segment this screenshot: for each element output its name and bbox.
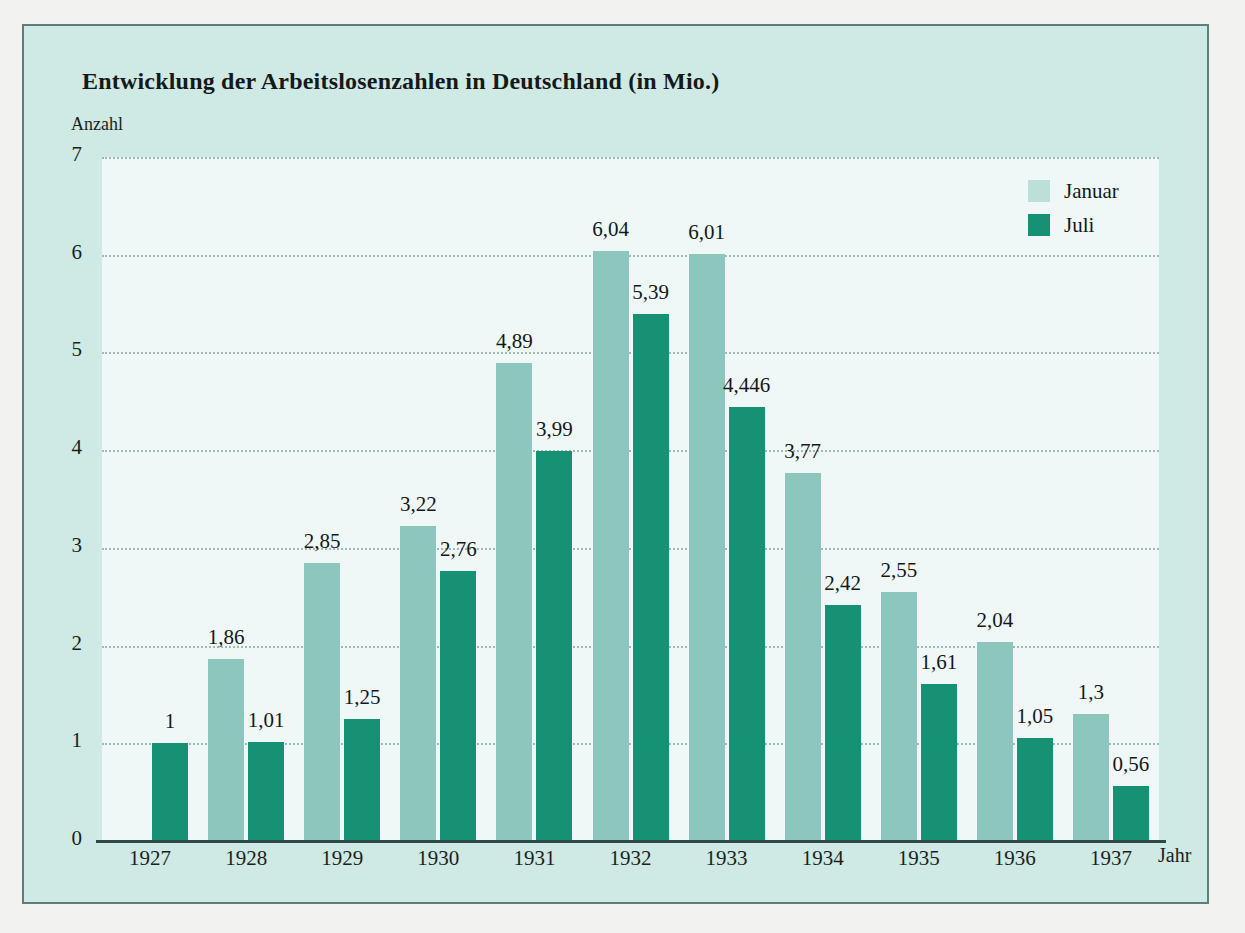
bar-juli-1927 bbox=[152, 743, 188, 841]
bar-value-label: 6,01 bbox=[688, 220, 725, 245]
legend-label-januar: Januar bbox=[1064, 179, 1119, 204]
bar-juli-1935 bbox=[921, 684, 957, 841]
bar-januar-1932 bbox=[593, 251, 629, 841]
bar-value-label: 2,76 bbox=[440, 537, 477, 562]
y-axis-tick-label: 3 bbox=[42, 533, 82, 558]
legend-swatch-dark-icon bbox=[1028, 214, 1050, 236]
bar-januar-1936 bbox=[977, 642, 1013, 841]
bar-juli-1928 bbox=[248, 742, 284, 841]
legend-label-juli: Juli bbox=[1064, 213, 1094, 238]
y-axis-tick-label: 0 bbox=[42, 826, 82, 851]
bar-value-label: 2,55 bbox=[880, 558, 917, 583]
chart-legend: Januar Juli bbox=[1028, 174, 1119, 242]
bar-januar-1935 bbox=[881, 592, 917, 841]
x-axis-tick-label-1937: 1937 bbox=[1051, 846, 1171, 871]
bar-value-label: 4,446 bbox=[723, 373, 770, 398]
screenshot-root: Entwicklung der Arbeitslosenzahlen in De… bbox=[0, 0, 1245, 933]
chart-title: Entwicklung der Arbeitslosenzahlen in De… bbox=[82, 68, 719, 95]
bar-juli-1930 bbox=[440, 571, 476, 841]
legend-item-juli: Juli bbox=[1028, 208, 1119, 242]
plot-area: 11,861,012,851,253,222,764,893,996,045,3… bbox=[102, 157, 1159, 841]
y-axis-tick-label: 2 bbox=[42, 631, 82, 656]
bar-januar-1934 bbox=[785, 473, 821, 841]
x-axis-line bbox=[96, 840, 1166, 843]
bar-juli-1934 bbox=[825, 605, 861, 841]
bar-value-label: 3,22 bbox=[400, 492, 437, 517]
bar-juli-1937 bbox=[1113, 786, 1149, 841]
bar-value-label: 6,04 bbox=[592, 217, 629, 242]
y-axis-tick-label: 5 bbox=[42, 337, 82, 362]
bar-juli-1932 bbox=[633, 314, 669, 841]
bar-juli-1936 bbox=[1017, 738, 1053, 841]
bar-value-label: 3,99 bbox=[536, 417, 573, 442]
bar-juli-1933 bbox=[729, 407, 765, 841]
bar-juli-1931 bbox=[536, 451, 572, 841]
bar-value-label: 1,01 bbox=[248, 708, 285, 733]
bar-januar-1930 bbox=[400, 526, 436, 841]
bar-value-label: 2,04 bbox=[976, 608, 1013, 633]
bar-value-label: 0,56 bbox=[1113, 752, 1150, 777]
bar-group bbox=[102, 157, 1159, 841]
bar-value-label: 1,05 bbox=[1016, 704, 1053, 729]
bar-value-label: 1,61 bbox=[920, 650, 957, 675]
legend-item-januar: Januar bbox=[1028, 174, 1119, 208]
y-axis-tick-label: 6 bbox=[42, 240, 82, 265]
y-axis-tick-label: 1 bbox=[42, 728, 82, 753]
bar-value-label: 2,85 bbox=[304, 529, 341, 554]
bar-januar-1937 bbox=[1073, 714, 1109, 841]
bar-januar-1928 bbox=[208, 659, 244, 841]
bar-value-label: 3,77 bbox=[784, 439, 821, 464]
bar-juli-1929 bbox=[344, 719, 380, 841]
legend-swatch-light-icon bbox=[1028, 180, 1050, 202]
bar-januar-1931 bbox=[496, 363, 532, 841]
bar-value-label: 1,86 bbox=[208, 625, 245, 650]
bar-januar-1929 bbox=[304, 563, 340, 841]
bar-value-label: 4,89 bbox=[496, 329, 533, 354]
y-axis-tick-label: 4 bbox=[42, 435, 82, 460]
bar-value-label: 5,39 bbox=[632, 280, 669, 305]
bar-value-label: 1,3 bbox=[1078, 680, 1104, 705]
bar-value-label: 2,42 bbox=[824, 571, 861, 596]
y-axis-tick-label: 7 bbox=[42, 142, 82, 167]
bar-value-label: 1,25 bbox=[344, 685, 381, 710]
bar-value-label: 1 bbox=[165, 709, 176, 734]
bar-januar-1933 bbox=[689, 254, 725, 841]
chart-figure-frame: Entwicklung der Arbeitslosenzahlen in De… bbox=[22, 24, 1209, 904]
y-axis-caption: Anzahl bbox=[71, 114, 123, 135]
